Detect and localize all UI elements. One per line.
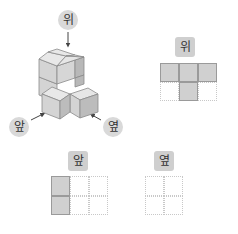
grid-cell[interactable] [145,176,164,196]
grid-cell[interactable] [164,176,183,196]
top-view-label: 위 [175,37,195,57]
side-direction-label: 옆 [103,117,123,137]
cubes [39,49,98,119]
front-arrow-icon [31,114,43,120]
top-view-grid [160,63,217,101]
side-view-label: 옆 [154,151,174,171]
side-arrow-icon [92,115,101,120]
grid-cell [179,63,198,82]
top-direction-label: 위 [58,10,78,30]
grid-cell[interactable] [89,176,108,196]
grid-cell[interactable] [160,82,179,101]
grid-cell [160,63,179,82]
grid-cell[interactable] [145,196,164,216]
grid-cell[interactable] [198,82,217,101]
grid-cell[interactable] [164,196,183,216]
side-view-grid [145,176,183,215]
grid-cell [51,176,70,196]
front-view-grid [51,176,108,215]
cube-assembly [0,0,238,234]
front-view-label: 앞 [68,151,88,171]
grid-cell[interactable] [70,176,89,196]
grid-cell [51,196,70,216]
grid-cell[interactable] [70,196,89,216]
grid-cell [179,82,198,101]
grid-cell[interactable] [89,196,108,216]
grid-cell [198,63,217,82]
front-direction-label: 앞 [9,117,29,137]
